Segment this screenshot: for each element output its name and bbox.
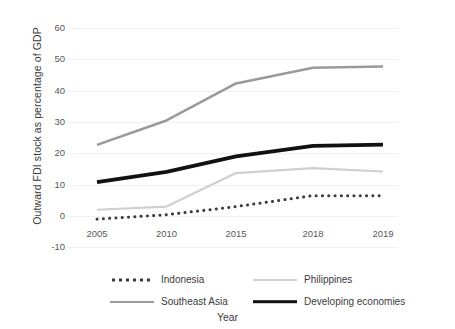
black-thick-line-swatch	[253, 297, 297, 307]
legend-item-southeast-asia[interactable]: Southeast Asia	[110, 296, 228, 307]
legend-label: Philippines	[304, 274, 352, 285]
x-tick-2015: 2015	[225, 228, 246, 239]
legend-item-philippines[interactable]: Philippines	[253, 274, 352, 285]
x-tick-2005: 2005	[86, 228, 107, 239]
legend-item-developing-economies[interactable]: Developing economies	[253, 296, 405, 307]
chart-legend: IndonesiaPhilippinesSoutheast AsiaDevelo…	[0, 272, 455, 314]
x-tick-2018: 2018	[302, 228, 323, 239]
line-chart: Outward FDI stock as percentage of GDP 6…	[0, 0, 455, 329]
legend-item-indonesia[interactable]: Indonesia	[110, 274, 204, 285]
legend-label: Developing economies	[304, 296, 405, 307]
x-tick-2019: 2019	[372, 228, 393, 239]
dotted-line-swatch	[110, 275, 154, 285]
series-line-developing-economies	[97, 145, 383, 183]
light-gray-line-swatch	[253, 275, 297, 285]
legend-label: Indonesia	[161, 274, 204, 285]
gray-line-swatch	[110, 297, 154, 307]
x-tick-2010: 2010	[156, 228, 177, 239]
legend-label: Southeast Asia	[161, 296, 228, 307]
series-line-southeast-asia	[97, 67, 383, 145]
